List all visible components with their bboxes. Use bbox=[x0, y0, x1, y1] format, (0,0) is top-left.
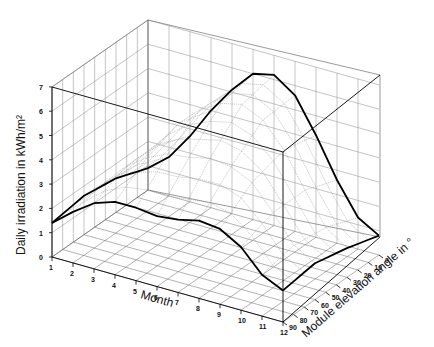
tick-label: 1 bbox=[49, 264, 53, 271]
tick-label: 4 bbox=[112, 282, 116, 289]
tick-label: 9 bbox=[217, 311, 221, 318]
irradiation-surface-chart: 0123456712345678910111201020304050607080… bbox=[0, 0, 434, 347]
tick-label: 1 bbox=[39, 230, 43, 237]
tick-label: 6 bbox=[39, 108, 43, 115]
y-axis-label: Module elevation angle in ° bbox=[299, 235, 417, 340]
tick-label: 0 bbox=[39, 254, 43, 261]
tick-label: 4 bbox=[39, 157, 43, 164]
tick-label: 3 bbox=[39, 181, 43, 188]
back-walls bbox=[52, 20, 380, 257]
x-axis-label: Month bbox=[139, 287, 175, 310]
tick-label: 7 bbox=[175, 299, 179, 306]
z-axis-label: Daily irradiation in kWh/m² bbox=[14, 115, 28, 255]
tick-label: 2 bbox=[70, 270, 74, 277]
wall-grid bbox=[52, 20, 379, 250]
tick-label: 2 bbox=[39, 205, 43, 212]
tick-label: 5 bbox=[133, 288, 137, 295]
tick-label: 8 bbox=[196, 305, 200, 312]
tick-label: 12 bbox=[280, 329, 288, 336]
tick-label: 11 bbox=[259, 323, 267, 330]
tick-label: 90 bbox=[289, 324, 297, 331]
tick-label: 3 bbox=[91, 276, 95, 283]
tick-label: 5 bbox=[39, 133, 43, 140]
surface-edges bbox=[52, 74, 379, 291]
tick-label: 10 bbox=[238, 317, 246, 324]
tick-label: 7 bbox=[39, 84, 43, 91]
